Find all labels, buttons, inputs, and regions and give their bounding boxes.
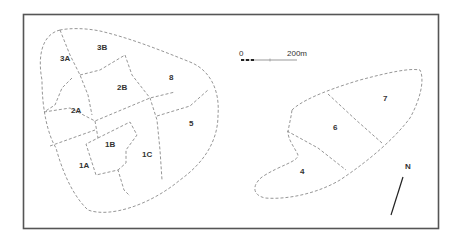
east-site-boundary [255, 69, 422, 198]
scale-bar: 0 200m [239, 49, 307, 62]
zone-label-2A: 2A [71, 106, 81, 115]
zone-label-7: 7 [383, 94, 388, 103]
north-label: N [405, 162, 411, 171]
map-frame [24, 15, 439, 229]
zone-label-3A: 3A [60, 54, 70, 63]
scale-start-label: 0 [239, 49, 244, 58]
north-arrow: N [391, 162, 411, 215]
zone-label-1C: 1C [142, 150, 152, 159]
zone-label-2B: 2B [117, 83, 127, 92]
zone-label-3B: 3B [97, 43, 107, 52]
zone-label-4: 4 [300, 167, 305, 176]
scale-end-label: 200m [287, 49, 307, 58]
zone-label-8: 8 [169, 73, 174, 82]
map-canvas: 3A 3B 8 2B 2A 5 1B 1C 1A 7 6 4 0 200m N [0, 0, 461, 239]
zone-label-5: 5 [189, 119, 194, 128]
zone-boundaries-east [287, 94, 382, 170]
zone-label-6: 6 [333, 123, 338, 132]
zone-label-1A: 1A [79, 161, 89, 170]
north-arrow-icon [391, 177, 403, 215]
zone-label-1B: 1B [105, 140, 115, 149]
